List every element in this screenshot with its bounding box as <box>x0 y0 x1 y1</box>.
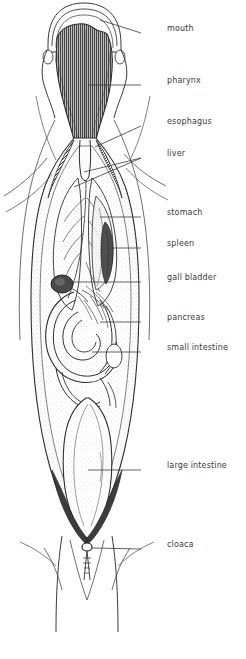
label-esophagus: esophagus <box>167 117 212 126</box>
pharynx-organ <box>56 24 112 140</box>
label-pancreas: pancreas <box>167 313 205 322</box>
label-large_intestine: large intestine <box>167 461 227 470</box>
label-stomach: stomach <box>167 208 202 217</box>
label-gall_bladder: gall bladder <box>167 273 216 282</box>
label-pharynx: pharynx <box>167 76 201 85</box>
leader-line-cloaca <box>92 548 141 549</box>
body-outline-group <box>4 3 168 632</box>
anatomy-diagram <box>0 0 246 659</box>
label-small_intestine: small intestine <box>167 343 228 352</box>
label-cloaca: cloaca <box>167 540 194 549</box>
label-spleen: spleen <box>167 239 194 248</box>
cloaca-organ <box>70 540 104 600</box>
label-liver: liver <box>167 149 185 158</box>
label-mouth: mouth <box>167 24 194 33</box>
